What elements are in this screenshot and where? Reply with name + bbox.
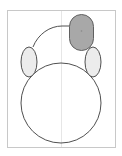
- diagram-svg: [0, 0, 122, 156]
- selection-center-handle[interactable]: [81, 30, 83, 32]
- drawing-canvas: [0, 0, 122, 156]
- left-ear-ellipse[interactable]: [21, 47, 37, 77]
- right-ear-ellipse[interactable]: [85, 47, 101, 77]
- selected-capsule-shape[interactable]: [70, 15, 94, 51]
